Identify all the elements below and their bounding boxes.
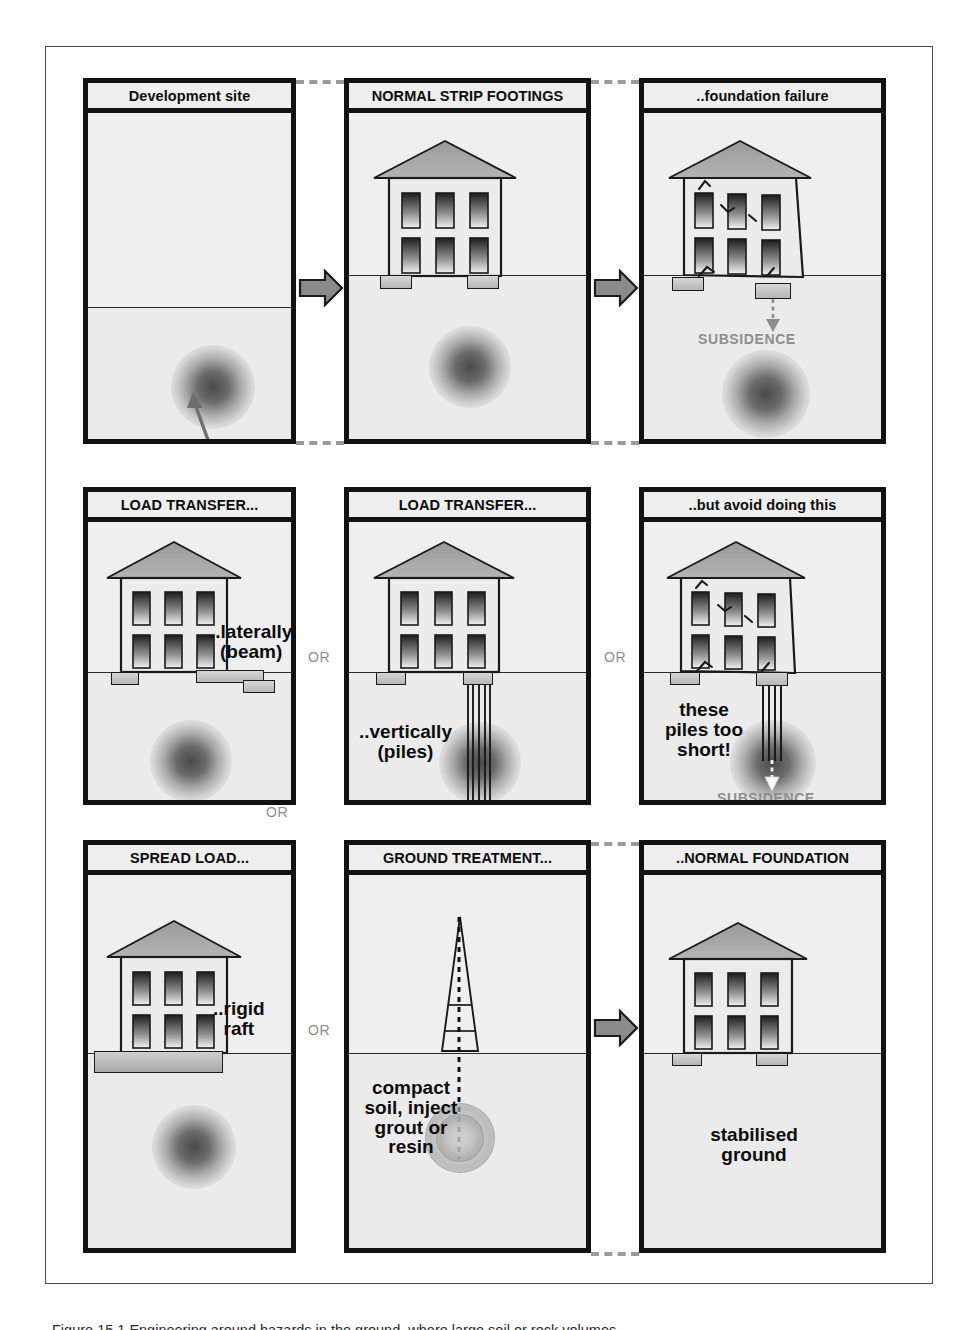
panel-body: stabilised ground bbox=[644, 875, 881, 1248]
panel-title: Development site bbox=[88, 83, 291, 113]
hazard-pointer-arrow bbox=[186, 390, 220, 439]
house-figure-cracked bbox=[664, 540, 814, 674]
panel-normal-strip-footings[interactable]: NORMAL STRIP FOOTINGS bbox=[344, 78, 591, 444]
beam-end-footing bbox=[243, 680, 275, 693]
hazard-blob bbox=[152, 1105, 236, 1189]
panel-ground-treatment[interactable]: GROUND TREATMENT... compact soil, inject… bbox=[344, 840, 591, 1253]
flow-arrow-r1c1-to-c2 bbox=[298, 269, 344, 307]
strip-footing-left bbox=[376, 672, 406, 685]
panel-title: SPREAD LOAD... bbox=[88, 845, 291, 875]
subsidence-label: SUBSIDENCE bbox=[698, 331, 796, 347]
panel-body: ..rigid raft bbox=[88, 875, 291, 1248]
subsidence-arrow bbox=[762, 760, 782, 792]
panel-load-transfer-laterally[interactable]: LOAD TRANSFER... bbox=[83, 487, 296, 805]
pile-cap bbox=[756, 672, 788, 686]
panel-title: GROUND TREATMENT... bbox=[349, 845, 586, 875]
panel-body: SUBSIDENCE bbox=[644, 113, 881, 439]
house-figure bbox=[371, 540, 519, 672]
panel-normal-foundation[interactable]: ..NORMAL FOUNDATION bbox=[639, 840, 886, 1253]
subsidence-arrow bbox=[764, 299, 782, 333]
strip-footing-right bbox=[467, 275, 499, 289]
piles-short bbox=[760, 685, 784, 761]
house-figure-cracked bbox=[666, 139, 818, 279]
or-label-row2-row3: OR bbox=[266, 804, 288, 820]
strip-footing-left bbox=[380, 275, 412, 289]
panel-title: ..foundation failure bbox=[644, 83, 881, 113]
panel-title: ..NORMAL FOUNDATION bbox=[644, 845, 881, 875]
hazard-blob bbox=[722, 350, 810, 438]
dashed-connector-bottom-r1c1-c2 bbox=[296, 441, 344, 445]
figure-frame: OR OR OR OR Development site HAZARD IN G… bbox=[45, 46, 933, 1284]
hazard-blob bbox=[150, 720, 232, 800]
rigid-raft bbox=[94, 1051, 223, 1073]
panel-body: ..laterally (beam) bbox=[88, 522, 291, 800]
flow-arrow-r1c2-to-c3 bbox=[593, 269, 639, 307]
panel-foundation-failure[interactable]: ..foundation failure bbox=[639, 78, 886, 444]
strip-footing-right bbox=[756, 1053, 788, 1066]
panel-body bbox=[349, 113, 586, 439]
dashed-connector-top-r3c2-c3 bbox=[591, 842, 639, 846]
figure-caption: Figure 15.1 Engineering around hazards i… bbox=[52, 1320, 952, 1330]
or-label-r2-c1-c2: OR bbox=[308, 649, 330, 665]
panel-body: compact soil, inject grout or resin bbox=[349, 875, 586, 1248]
flow-arrow-r3c2-to-c3 bbox=[593, 1009, 639, 1047]
dashed-connector-bottom-r3c2-c3 bbox=[591, 1252, 639, 1256]
dashed-connector-bottom-r1c2-c3 bbox=[591, 441, 639, 445]
sky-region bbox=[88, 113, 291, 307]
house-figure bbox=[371, 139, 521, 276]
panel-development-site[interactable]: Development site HAZARD IN GROUND bbox=[83, 78, 296, 444]
compact-soil-label: compact soil, inject grout or resin bbox=[359, 1078, 463, 1157]
rigid-raft-label: ..rigid raft bbox=[213, 999, 265, 1039]
laterally-beam-label: ..laterally (beam) bbox=[210, 622, 291, 662]
strip-footing-left bbox=[111, 672, 139, 685]
panel-spread-load[interactable]: SPREAD LOAD... bbox=[83, 840, 296, 1253]
panel-body: HAZARD IN GROUND bbox=[88, 113, 291, 439]
or-label-r2-c2-c3: OR bbox=[604, 649, 626, 665]
strip-footing-right-sunk bbox=[755, 283, 791, 299]
panel-body: ..vertically (piles) bbox=[349, 522, 586, 800]
dashed-connector-top-r1c1-c2 bbox=[296, 80, 344, 84]
piles-too-short-label: these piles too short! bbox=[658, 700, 750, 759]
piles-long bbox=[465, 684, 493, 800]
panel-avoid-doing-this[interactable]: ..but avoid doing this bbox=[639, 487, 886, 805]
panel-title: LOAD TRANSFER... bbox=[88, 492, 291, 522]
strip-footing-left bbox=[672, 1053, 702, 1066]
hazard-blob bbox=[429, 326, 511, 408]
or-label-r3-c1-c2: OR bbox=[308, 1022, 330, 1038]
strip-footing-left bbox=[672, 277, 704, 291]
panel-title: LOAD TRANSFER... bbox=[349, 492, 586, 522]
strip-footing-left bbox=[670, 672, 700, 685]
stabilised-ground-label: stabilised ground bbox=[684, 1125, 824, 1165]
subsidence-label: SUBSIDENCE bbox=[717, 790, 815, 800]
panel-load-transfer-vertically[interactable]: LOAD TRANSFER... bbox=[344, 487, 591, 805]
panel-title: NORMAL STRIP FOOTINGS bbox=[349, 83, 586, 113]
panel-body: these piles too short! SUBSIDENCE bbox=[644, 522, 881, 800]
vertically-piles-label: ..vertically (piles) bbox=[359, 722, 452, 762]
dashed-connector-top-r1c2-c3 bbox=[591, 80, 639, 84]
panel-title: ..but avoid doing this bbox=[644, 492, 881, 522]
house-figure bbox=[666, 921, 812, 1053]
